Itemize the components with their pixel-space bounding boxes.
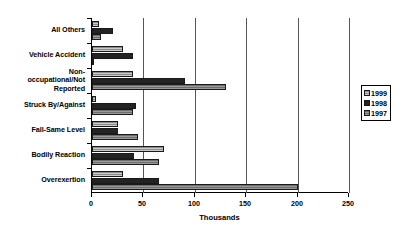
axis-tick: [297, 193, 298, 197]
category-label-line: Bodily Reaction: [0, 151, 85, 160]
category-label: Fall-Same Level: [0, 126, 85, 135]
axis-tick-label: 200: [277, 199, 317, 208]
gridline-250: [349, 18, 350, 193]
bar: [92, 184, 298, 190]
bar: [92, 109, 133, 115]
bar-group: [92, 18, 348, 43]
axis-tick-label: 250: [328, 199, 368, 208]
bar-chart: All OthersVehicle AccidentNon-occupation…: [0, 0, 414, 249]
bar: [92, 121, 118, 127]
legend-swatch-icon: [364, 110, 370, 116]
bar: [92, 34, 101, 40]
category-axis: All OthersVehicle AccidentNon-occupation…: [0, 18, 88, 193]
bar-group: [92, 43, 348, 68]
bar-group: [92, 168, 348, 193]
axis-tick: [194, 193, 195, 197]
bar-group: [92, 143, 348, 168]
bar: [92, 59, 94, 65]
category-label-line: Vehicle Accident: [0, 51, 85, 60]
category-tick: [87, 43, 91, 44]
category-label-line: Overexertion: [0, 176, 85, 185]
category-tick: [87, 68, 91, 69]
axis-tick: [142, 193, 143, 197]
category-tick: [87, 118, 91, 119]
axis-tick: [348, 193, 349, 197]
legend-label: 1997: [371, 109, 387, 118]
axis-tick-label: 100: [174, 199, 214, 208]
legend-label: 1999: [371, 89, 387, 98]
legend-swatch-icon: [364, 90, 370, 96]
bar-group: [92, 118, 348, 143]
category-tick: [87, 18, 91, 19]
category-label: Vehicle Accident: [0, 51, 85, 60]
legend-label: 1998: [371, 99, 387, 108]
legend-swatch-icon: [364, 100, 370, 106]
category-label-line: Fall-Same Level: [0, 126, 85, 135]
axis-tick-label: 50: [122, 199, 162, 208]
axis-title: Thousands: [91, 213, 348, 222]
legend-item-1999[interactable]: 1999: [364, 88, 387, 98]
bar: [92, 53, 133, 59]
plot-area: [91, 18, 348, 193]
legend: 199919981997: [361, 85, 391, 121]
legend-item-1998[interactable]: 1998: [364, 98, 387, 108]
bar: [92, 46, 123, 52]
category-label: Bodily Reaction: [0, 151, 85, 160]
category-label-line: All Others: [0, 26, 85, 35]
bar: [92, 134, 138, 140]
bar: [92, 171, 123, 177]
category-label-line: Reported: [0, 85, 85, 94]
bar: [92, 159, 159, 165]
axis-tick-label: 150: [225, 199, 265, 208]
bar: [92, 21, 99, 27]
bar: [92, 96, 96, 102]
category-tick: [87, 143, 91, 144]
bar-group: [92, 68, 348, 93]
legend-item-1997[interactable]: 1997: [364, 108, 387, 118]
axis-tick: [245, 193, 246, 197]
category-label: All Others: [0, 26, 85, 35]
category-label: Struck By/Against: [0, 101, 85, 110]
bar: [92, 146, 164, 152]
category-label: Non-occupational/NotReported: [0, 68, 85, 94]
axis-tick-label: 0: [71, 199, 111, 208]
category-tick: [87, 168, 91, 169]
axis-tick: [91, 193, 92, 197]
bar: [92, 71, 133, 77]
category-label: Overexertion: [0, 176, 85, 185]
bar-group: [92, 93, 348, 118]
category-tick: [87, 93, 91, 94]
category-label-line: Struck By/Against: [0, 101, 85, 110]
bar: [92, 84, 226, 90]
